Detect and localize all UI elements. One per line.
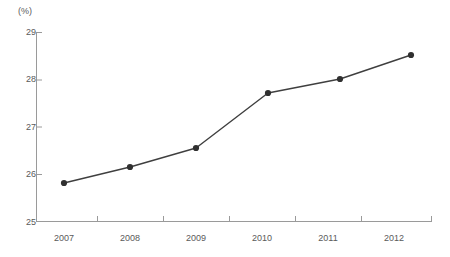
data-point-2012 xyxy=(408,52,414,58)
data-point-2009 xyxy=(193,145,199,151)
data-point-2010 xyxy=(265,90,271,96)
line-chart: (%) 29 28 27 26 25 2007 2008 2009 2010 2… xyxy=(0,0,450,257)
plot-area xyxy=(0,0,450,257)
data-point-2007 xyxy=(61,180,67,186)
data-line-series xyxy=(64,55,411,183)
data-point-2011 xyxy=(337,76,343,82)
data-point-2008 xyxy=(127,164,133,170)
